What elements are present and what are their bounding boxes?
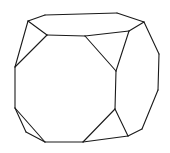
- edge-B-C: [117, 13, 144, 22]
- edge-K-O: [15, 108, 45, 142]
- edge-E-F: [47, 35, 85, 36]
- edge-F-I: [85, 36, 116, 71]
- polyhedron-drawing: [0, 0, 170, 153]
- edge-P-Q: [83, 136, 128, 142]
- edge-J-M: [158, 54, 159, 90]
- edge-L-Q: [115, 109, 128, 136]
- edge-G-C: [129, 22, 144, 31]
- edge-D-A: [28, 15, 45, 21]
- edge-N-O: [26, 132, 45, 142]
- polyhedron-edges: [15, 13, 159, 142]
- edge-P-L: [83, 109, 115, 142]
- edge-K-N: [15, 108, 26, 132]
- truncated-cube-figure: [0, 0, 170, 153]
- edge-A-B: [45, 13, 117, 15]
- edge-F-G: [85, 31, 129, 36]
- edge-D-E: [28, 21, 47, 35]
- edge-C-J: [144, 22, 159, 54]
- edge-G-I: [116, 31, 129, 71]
- edge-I-L: [115, 71, 116, 109]
- edge-Q-R: [128, 129, 142, 136]
- edge-M-R: [142, 90, 158, 129]
